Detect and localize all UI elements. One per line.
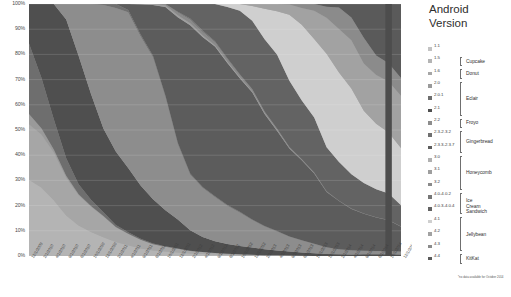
y-axis-tick-label: 10% [15, 228, 25, 233]
y-axis-tick-label: 20% [15, 203, 25, 208]
y-axis-tick-label: 80% [15, 52, 25, 57]
stacked-area-svg [29, 4, 401, 256]
bracket-icon [460, 254, 461, 263]
legend-swatch-icon [428, 59, 432, 63]
android-version-chart: 0%10%20%30%40%50%60%70%80%90%100% 12/1/2… [0, 0, 511, 297]
legend-group-label: KitKat [466, 256, 479, 262]
legend-title-line: Version [429, 17, 509, 31]
legend-group-label: Gingerbread [466, 139, 493, 145]
bracket-icon [460, 69, 461, 78]
legend-swatch-icon [428, 207, 432, 211]
legend-swatch-icon [428, 121, 432, 125]
legend-group-label: Froyo [466, 120, 478, 126]
y-axis-tick-label: 30% [15, 178, 25, 183]
legend-item-label: 2.0 [434, 81, 440, 85]
legend-swatch-icon [428, 72, 432, 76]
legend-group-label: Donut [466, 71, 479, 77]
legend-swatch-icon [428, 133, 432, 137]
legend-item-label: 2.2 [434, 118, 440, 122]
legend-item-label: 2.3-2.3.2 [434, 130, 451, 134]
plot-area [29, 4, 401, 256]
y-axis: 0%10%20%30%40%50%60%70%80%90%100% [0, 0, 27, 256]
legend-item-label: 4.1 [434, 217, 440, 221]
y-axis-tick-label: 90% [15, 27, 25, 32]
legend-title: AndroidVersion [429, 3, 509, 30]
legend-item-label: 4.3 [434, 242, 440, 246]
bracket-icon [460, 82, 461, 116]
bracket-icon [460, 57, 461, 66]
y-axis-tick-label: 100% [12, 1, 25, 6]
legend-item-label: 1.5 [434, 56, 440, 60]
no-data-band [385, 4, 391, 256]
legend-item-label: 1.1 [434, 44, 440, 48]
legend-item-label: 4.0-4.0.2 [434, 192, 451, 196]
y-axis-tick-label: 70% [15, 77, 25, 82]
bracket-icon [460, 217, 461, 251]
legend-item-label: 3.1 [434, 167, 440, 171]
legend-swatch-icon [428, 109, 432, 113]
legend-title-line: Android [429, 3, 509, 17]
legend-item-label: 3.2 [434, 180, 440, 184]
legend-item-label: 4.0.3-4.0.4 [434, 204, 454, 208]
legend-item-label: 4.2 [434, 229, 440, 233]
legend-swatch-icon [428, 183, 432, 187]
legend-group-label: Eclair [466, 96, 478, 102]
legend-swatch-icon [428, 257, 432, 261]
legend-swatch-icon [428, 232, 432, 236]
legend-swatch-icon [428, 245, 432, 249]
x-axis: 12/1/20092/1/20104/1/20106/1/20108/1/201… [29, 257, 407, 297]
y-axis-tick-label: 40% [15, 153, 25, 158]
legend-swatch-icon [428, 220, 432, 224]
bracket-icon [460, 156, 461, 190]
legend-group-label: Ice Cream Sandwich [466, 198, 487, 215]
legend-group-label: Jellybean [466, 232, 486, 238]
y-axis-tick-label: 60% [15, 102, 25, 107]
bracket-icon [460, 131, 461, 153]
legend-swatch-icon [428, 195, 432, 199]
legend-item-label: 2.1 [434, 106, 440, 110]
legend-swatch-icon [428, 170, 432, 174]
legend-item-label: 3.0 [434, 155, 440, 159]
legend-swatch-icon [428, 96, 432, 100]
bracket-icon [460, 193, 461, 215]
legend-item-label: 4.4 [434, 254, 440, 258]
legend-swatch-icon [428, 47, 432, 51]
y-axis-tick-label: 0% [18, 253, 25, 258]
legend-swatch-icon [428, 158, 432, 162]
legend-items: 1.11.51.62.02.0.12.12.22.3-2.3.22.3.3-2.… [428, 43, 511, 265]
legend-swatch-icon [428, 146, 432, 150]
bracket-icon [460, 119, 461, 128]
legend-item-label: 2.3.3-2.3.7 [434, 143, 454, 147]
legend-group-brackets: CupcakeDonutEclairFroyoGingerbreadHoneyc… [460, 43, 511, 257]
legend-item-label: 1.6 [434, 69, 440, 73]
legend-group-label: Honeycomb [466, 170, 492, 176]
footnote: *no data available for October 2014 [458, 276, 511, 279]
chart-region: 0%10%20%30%40%50%60%70%80%90%100% 12/1/2… [0, 0, 412, 297]
legend-panel: AndroidVersion 1.11.51.62.02.0.12.12.22.… [412, 0, 511, 297]
legend-item-label: 2.0.1 [434, 93, 444, 97]
legend-group-label: Cupcake [466, 59, 485, 65]
y-axis-tick-label: 50% [15, 127, 25, 132]
legend-swatch-icon [428, 84, 432, 88]
